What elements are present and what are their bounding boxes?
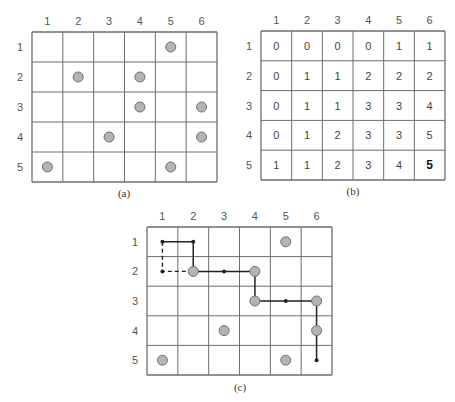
column-label: 3 (335, 14, 341, 26)
row-label: 5 (132, 354, 138, 366)
column-label: 3 (106, 15, 112, 27)
cell-value: 1 (396, 40, 402, 52)
cell-value: 0 (273, 129, 279, 141)
row-label: 2 (132, 265, 138, 277)
column-label: 6 (314, 210, 320, 222)
cell-value: 1 (335, 70, 341, 82)
path-point-icon (315, 358, 319, 362)
coin-collecting-diagram: 12345612345(a)12345612345(b)000011011222… (0, 0, 455, 402)
panel-caption: (a) (118, 187, 131, 200)
row-label: 1 (246, 40, 252, 52)
column-label: 6 (427, 14, 433, 26)
row-label: 2 (246, 70, 252, 82)
cell-value: 4 (396, 159, 402, 171)
cell-value: 5 (427, 129, 433, 141)
cell-value: 2 (335, 159, 341, 171)
column-label: 5 (168, 15, 174, 27)
cell-value: 4 (427, 100, 433, 112)
column-label: 3 (221, 210, 227, 222)
cell-value: 3 (365, 129, 371, 141)
cell-value: 2 (335, 129, 341, 141)
coin-icon (157, 355, 167, 365)
cell-value: 3 (365, 100, 371, 112)
row-label: 4 (132, 325, 138, 337)
cell-value: 1 (335, 100, 341, 112)
cell-value: 0 (365, 40, 371, 52)
coin-icon (250, 266, 260, 276)
coin-icon (281, 355, 291, 365)
cell-value: 3 (365, 159, 371, 171)
row-label: 4 (17, 131, 23, 143)
panel-a: 12345612345(a) (17, 15, 217, 200)
panel-c: 12345612345(c) (132, 210, 332, 394)
panel-caption: (c) (234, 381, 247, 394)
path-point-icon (160, 269, 164, 273)
cell-value: 2 (365, 70, 371, 82)
column-label: 1 (159, 210, 165, 222)
column-label: 4 (252, 210, 258, 222)
cell-value: 1 (304, 159, 310, 171)
column-label: 4 (137, 15, 143, 27)
coin-icon (312, 326, 322, 336)
cell-value: 3 (396, 100, 402, 112)
row-label: 5 (246, 159, 252, 171)
cell-value: 1 (304, 70, 310, 82)
row-label: 5 (17, 161, 23, 173)
column-label: 5 (396, 14, 402, 26)
coin-icon (135, 72, 145, 82)
row-label: 3 (132, 295, 138, 307)
coin-icon (42, 162, 52, 172)
row-label: 1 (17, 41, 23, 53)
panel-b: 12345612345(b)00001101122201133401233511… (246, 14, 445, 198)
cell-value: 1 (273, 159, 279, 171)
max-coins-value: 5 (426, 158, 433, 172)
column-label: 1 (44, 15, 50, 27)
cell-value: 3 (396, 129, 402, 141)
coin-icon (312, 296, 322, 306)
column-label: 4 (365, 14, 371, 26)
cell-value: 0 (273, 100, 279, 112)
column-label: 2 (304, 14, 310, 26)
cell-value: 1 (427, 40, 433, 52)
coin-icon (219, 326, 229, 336)
column-label: 2 (190, 210, 196, 222)
column-label: 2 (75, 15, 81, 27)
cell-value: 0 (273, 40, 279, 52)
coin-icon (250, 296, 260, 306)
coin-icon (166, 162, 176, 172)
panel-caption: (b) (347, 185, 360, 198)
column-label: 6 (199, 15, 205, 27)
path-point-icon (284, 299, 288, 303)
cell-value: 0 (335, 40, 341, 52)
coin-icon (281, 237, 291, 247)
coin-icon (73, 72, 83, 82)
cell-value: 1 (304, 100, 310, 112)
column-label: 1 (273, 14, 279, 26)
row-label: 4 (246, 129, 252, 141)
coin-icon (166, 42, 176, 52)
row-label: 1 (132, 236, 138, 248)
coin-icon (197, 132, 207, 142)
cell-value: 1 (304, 129, 310, 141)
cell-value: 2 (427, 70, 433, 82)
row-label: 3 (17, 101, 23, 113)
row-label: 2 (17, 71, 23, 83)
path-point-icon (160, 240, 164, 244)
row-label: 3 (246, 100, 252, 112)
cell-value: 0 (304, 40, 310, 52)
path-point-icon (191, 240, 195, 244)
cell-value: 0 (273, 70, 279, 82)
coin-icon (135, 102, 145, 112)
path-point-icon (222, 269, 226, 273)
column-label: 5 (283, 210, 289, 222)
coin-icon (197, 102, 207, 112)
coin-icon (188, 266, 198, 276)
coin-icon (104, 132, 114, 142)
cell-value: 2 (396, 70, 402, 82)
